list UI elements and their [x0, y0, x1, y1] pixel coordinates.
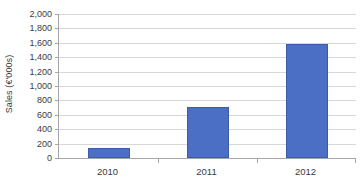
bar-2011[interactable]: [187, 107, 229, 158]
y-axis-tick-label: 1,000: [16, 82, 52, 91]
x-axis-tick-label: 2011: [157, 166, 256, 177]
x-axis-tick-mark: [257, 159, 258, 163]
y-axis-tick-mark: [55, 115, 59, 116]
y-axis-tick-label: 0: [16, 154, 52, 163]
gridline: [59, 28, 356, 29]
y-axis-tick-mark: [55, 28, 59, 29]
bar-2010[interactable]: [88, 148, 130, 158]
y-axis-tick-label: 1,600: [16, 39, 52, 48]
x-axis-tick-labels: 201020112012: [58, 166, 355, 186]
plot-area: [58, 14, 356, 159]
y-axis-tick-mark: [55, 129, 59, 130]
x-axis-tick-label: 2010: [58, 166, 157, 177]
y-axis-tick-label: 2,000: [16, 10, 52, 19]
y-axis-tick-label: 800: [16, 96, 52, 105]
y-axis-tick-label: 400: [16, 125, 52, 134]
y-axis-tick-label: 1,800: [16, 24, 52, 33]
y-axis-tick-label: 1,400: [16, 53, 52, 62]
y-axis-tick-mark: [55, 100, 59, 101]
x-axis-tick-mark: [158, 159, 159, 163]
y-axis-tick-mark: [55, 72, 59, 73]
y-axis-tick-mark: [55, 14, 59, 15]
y-axis-tick-label: 200: [16, 140, 52, 149]
y-axis-tick-mark: [55, 57, 59, 58]
y-axis-tick-mark: [55, 158, 59, 159]
bar-2012[interactable]: [286, 44, 328, 158]
bar-chart: Sales (€'000s) 2,0001,8001,6001,4001,200…: [0, 0, 363, 193]
y-axis-tick-label: 600: [16, 111, 52, 120]
y-axis-tick-labels: 2,0001,8001,6001,4001,2001,0008006004002…: [18, 8, 54, 160]
x-axis-tick-label: 2012: [256, 166, 355, 177]
x-axis-tick-mark: [355, 159, 356, 163]
y-axis-tick-mark: [55, 86, 59, 87]
y-axis-tick-mark: [55, 43, 59, 44]
y-axis-title-text: Sales (€'000s): [4, 55, 14, 114]
y-axis-tick-label: 1,200: [16, 68, 52, 77]
y-axis-tick-mark: [55, 144, 59, 145]
gridline: [59, 14, 356, 15]
